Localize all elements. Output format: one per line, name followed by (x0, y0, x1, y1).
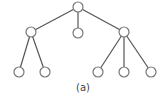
tree-node-rl (93, 67, 103, 77)
tree-edge-l-lr (31, 32, 45, 72)
tree-node-ll (14, 67, 24, 77)
tree-node-m (73, 28, 83, 38)
tree-edges (19, 7, 151, 72)
tree-edge-r-rr (124, 32, 151, 72)
tree-edge-root-r (78, 7, 124, 32)
tree-node-l (26, 27, 36, 37)
tree-node-rr (146, 67, 156, 77)
tree-node-r (119, 27, 129, 37)
tree-edge-r-rl (98, 32, 124, 72)
diagram-caption: (a) (0, 82, 166, 93)
tree-node-lr (40, 67, 50, 77)
tree-edge-l-ll (19, 32, 31, 72)
tree-edge-root-l (31, 7, 78, 32)
tree-node-root (73, 2, 83, 12)
tree-nodes (14, 2, 156, 77)
tree-node-rm (119, 67, 129, 77)
